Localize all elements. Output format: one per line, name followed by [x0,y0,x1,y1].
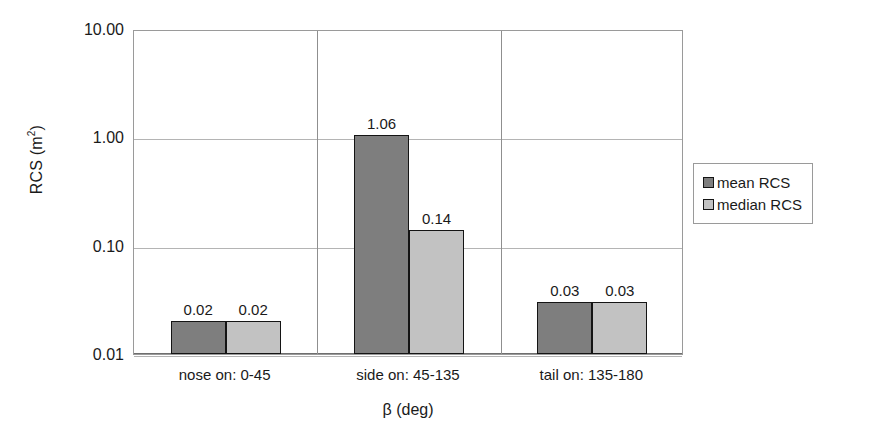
y-axis-tick-labels: 10.001.000.100.01 [58,0,124,443]
bar-mean [171,321,226,354]
x-axis-category-label: side on: 45-135 [316,366,499,383]
bar-value-label: 0.03 [582,283,657,298]
category-separator-gridline [501,31,502,354]
bar-median [592,302,647,354]
legend-item: median RCS [703,193,802,215]
chart-legend: mean RCSmedian RCS [693,163,813,224]
horizontal-gridline [134,356,682,357]
legend-item-label: mean RCS [717,175,790,190]
legend-swatch-icon [703,199,714,210]
plot-area: 0.020.021.060.140.030.03 [133,30,683,355]
x-axis-category-label: nose on: 0-45 [133,366,316,383]
y-axis-tick-label: 0.01 [58,347,124,363]
legend-item: mean RCS [703,171,802,193]
legend-swatch-icon [703,177,714,188]
bar-value-label: 0.02 [216,302,291,317]
y-axis-title-exponent: 2 [26,131,37,137]
legend-item-label: median RCS [717,197,802,212]
bar-median [226,321,281,354]
bar-value-label: 0.14 [399,211,474,226]
bar-median [409,230,464,354]
bar-value-label: 1.06 [344,116,419,131]
y-axis-title-paren: ) [28,125,45,131]
y-axis-title-text: RCS (m [28,136,45,194]
bar-mean [537,302,592,354]
y-axis-title: RCS (m2) [26,80,45,240]
bar-mean [354,135,409,354]
y-axis-tick-label: 1.00 [58,130,124,146]
rcs-bar-chart: RCS (m2) 10.001.000.100.01 0.020.021.060… [0,0,878,443]
y-axis-tick-label: 10.00 [58,22,124,38]
x-axis-category-label: tail on: 135-180 [500,366,683,383]
category-separator-gridline [317,31,318,354]
x-axis-title: β (deg) [133,401,683,419]
y-axis-tick-label: 0.10 [58,239,124,255]
